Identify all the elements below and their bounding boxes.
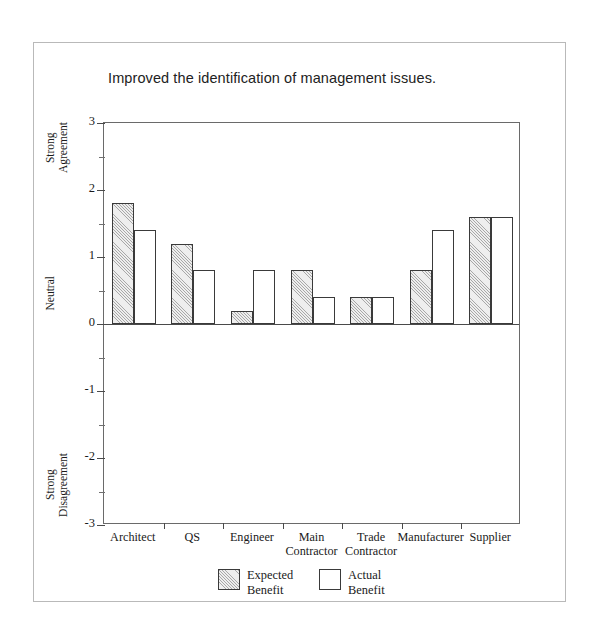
plot-area — [103, 122, 520, 524]
y-axis-tick-label: -3 — [65, 517, 95, 530]
y-axis-minor-tick — [99, 224, 105, 225]
bar-expected — [171, 244, 193, 324]
y-axis-descriptor: Strong Disagreement — [44, 453, 70, 517]
legend-label-actual: Actual Benefit — [348, 568, 384, 597]
x-axis-tick-label: Engineer — [230, 530, 274, 544]
bar-actual — [491, 217, 513, 324]
y-axis-tick-label: 2 — [65, 182, 95, 195]
bar-actual — [432, 230, 454, 324]
bar-expected — [291, 270, 313, 324]
legend-item-actual: Actual Benefit — [319, 568, 384, 597]
x-axis-tick — [461, 523, 462, 529]
bar-actual — [372, 297, 394, 324]
y-axis-minor-tick — [99, 157, 105, 158]
x-axis-tick — [223, 523, 224, 529]
x-axis-tick-label: Manufacturer — [397, 530, 463, 544]
y-axis-minor-tick — [99, 291, 105, 292]
y-axis-minor-tick — [99, 358, 105, 359]
bar-expected — [112, 203, 134, 324]
legend-label-expected: Expected Benefit — [247, 568, 293, 597]
legend-swatch-expected-icon — [218, 569, 240, 590]
y-axis-descriptor: Neutral — [44, 276, 57, 310]
y-axis-major-tick — [97, 458, 105, 459]
zero-baseline — [104, 324, 519, 325]
x-axis-tick — [342, 523, 343, 529]
bar-actual — [253, 270, 275, 324]
x-axis-tick-label: Supplier — [470, 530, 511, 544]
x-axis-tick-labels: ArchitectQSEngineerMain ContractorTrade … — [103, 530, 520, 570]
x-axis-tick — [402, 523, 403, 529]
y-axis-descriptor: Strong Agreement — [44, 122, 70, 173]
x-axis-tick — [164, 523, 165, 529]
x-axis-tick-label: Main Contractor — [285, 530, 337, 558]
bar-expected — [350, 297, 372, 324]
y-axis-major-tick — [97, 525, 105, 526]
bar-actual — [193, 270, 215, 324]
bar-actual — [134, 230, 156, 324]
x-axis-tick — [283, 523, 284, 529]
x-axis-tick-label: Architect — [110, 530, 155, 544]
y-axis-major-tick — [97, 123, 105, 124]
y-axis-tick-label: -1 — [65, 383, 95, 396]
legend-item-expected: Expected Benefit — [218, 568, 293, 597]
bar-expected — [410, 270, 432, 324]
legend-swatch-actual-icon — [319, 569, 341, 590]
y-axis-minor-tick — [99, 492, 105, 493]
page-title: Improved the identification of managemen… — [108, 70, 436, 86]
bar-expected — [469, 217, 491, 324]
chart-legend: Expected Benefit Actual Benefit — [218, 568, 385, 597]
bar-expected — [231, 311, 253, 324]
bar-actual — [313, 297, 335, 324]
x-axis-tick-label: Trade Contractor — [345, 530, 397, 558]
y-axis-tick-label: 0 — [65, 316, 95, 329]
y-axis-minor-tick — [99, 425, 105, 426]
x-axis-tick-label: QS — [185, 530, 201, 544]
y-axis-major-tick — [97, 257, 105, 258]
y-axis-major-tick — [97, 190, 105, 191]
y-axis-major-tick — [97, 391, 105, 392]
y-axis-tick-label: 1 — [65, 249, 95, 262]
